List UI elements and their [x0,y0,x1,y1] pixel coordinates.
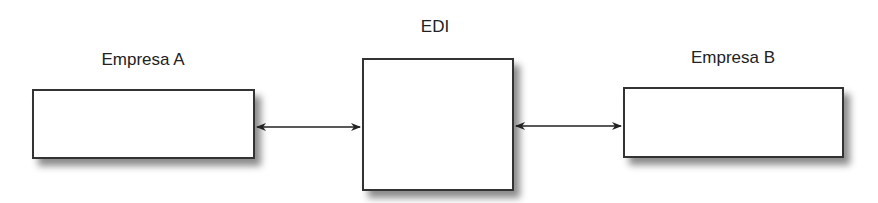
connector-arrows [0,0,878,203]
